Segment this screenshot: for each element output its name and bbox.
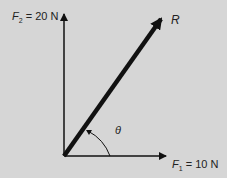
angle-arc-icon [88, 131, 110, 156]
f1-label: F1 = 10 N [172, 158, 218, 172]
f2-label: F2 = 20 N [12, 10, 58, 24]
vector-diagram [0, 0, 227, 178]
resultant-label: R [171, 13, 180, 27]
resultant-vector-arrow [64, 19, 161, 156]
angle-label: θ [115, 124, 121, 136]
